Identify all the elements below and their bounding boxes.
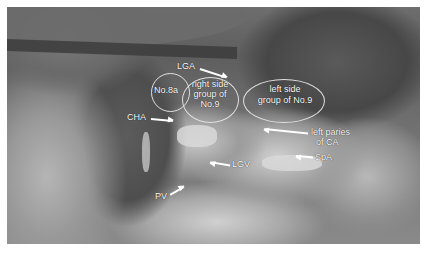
label-cha: CHA	[127, 113, 146, 123]
surgical-photo	[7, 7, 420, 244]
label-right-side-line3: No.9	[183, 100, 237, 110]
label-left-side-line2: group of No.9	[246, 96, 324, 106]
label-left-side-line1: left side	[246, 85, 324, 95]
stent-tube	[142, 132, 150, 172]
label-lga: LGA	[177, 62, 195, 72]
label-no8a: No.8a	[150, 86, 182, 96]
label-left-paries-line2: of CA	[316, 138, 339, 148]
label-spa: SpA	[315, 153, 332, 163]
label-lgv: LGV	[232, 160, 250, 170]
cha-vessel	[177, 125, 217, 147]
label-pv: PV	[155, 192, 167, 202]
